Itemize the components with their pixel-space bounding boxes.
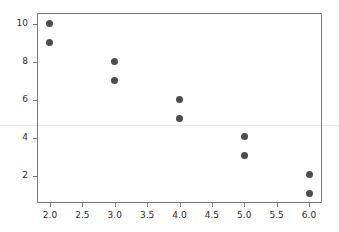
x-tick-label: 4.5 bbox=[205, 211, 219, 220]
x-tick-mark bbox=[115, 203, 116, 207]
x-tick-label: 6.0 bbox=[302, 211, 316, 220]
data-point bbox=[241, 133, 248, 140]
y-tick-mark bbox=[33, 138, 37, 139]
plot-area bbox=[37, 13, 322, 203]
y-tick-label: 10 bbox=[0, 19, 28, 28]
data-point bbox=[306, 190, 313, 197]
x-tick-label: 5.5 bbox=[269, 211, 283, 220]
y-tick-label: 6 bbox=[0, 95, 28, 104]
data-point bbox=[241, 152, 248, 159]
x-tick-mark bbox=[82, 203, 83, 207]
y-tick-mark bbox=[33, 24, 37, 25]
y-tick-label: 8 bbox=[0, 57, 28, 66]
y-tick-mark bbox=[33, 176, 37, 177]
x-tick-label: 3.5 bbox=[140, 211, 154, 220]
x-tick-mark bbox=[50, 203, 51, 207]
x-tick-label: 4.0 bbox=[172, 211, 186, 220]
y-tick-label: 4 bbox=[0, 133, 28, 142]
x-tick-mark bbox=[244, 203, 245, 207]
y-tick-label: 2 bbox=[0, 171, 28, 180]
x-tick-mark bbox=[147, 203, 148, 207]
x-tick-mark bbox=[212, 203, 213, 207]
y-tick-mark bbox=[33, 62, 37, 63]
x-tick-label: 2.5 bbox=[75, 211, 89, 220]
y-tick-mark bbox=[33, 100, 37, 101]
scatter-plot-figure: 246810 2.02.53.03.54.04.55.05.56.0 bbox=[0, 0, 339, 232]
x-tick-mark bbox=[309, 203, 310, 207]
x-tick-mark bbox=[277, 203, 278, 207]
data-point bbox=[306, 171, 313, 178]
x-tick-mark bbox=[180, 203, 181, 207]
x-tick-label: 5.0 bbox=[237, 211, 251, 220]
x-tick-label: 2.0 bbox=[43, 211, 57, 220]
x-tick-label: 3.0 bbox=[108, 211, 122, 220]
